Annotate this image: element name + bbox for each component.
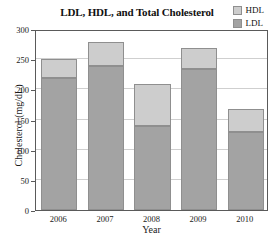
- x-tick-label: 2009: [190, 214, 207, 224]
- y-tick-label: 0: [25, 206, 29, 216]
- bar-segment-ldl: [41, 78, 77, 210]
- legend-label: HDL: [246, 6, 265, 15]
- x-tick-label: 2007: [96, 214, 113, 224]
- chart-legend: HDLLDL: [231, 4, 267, 30]
- y-tick-label: 150: [16, 116, 29, 126]
- y-tick-label: 50: [21, 176, 30, 186]
- plot-area: [35, 30, 268, 211]
- y-axis-ticks: 050100150200250300: [0, 30, 35, 211]
- x-axis-title: Year: [35, 224, 268, 235]
- bar-group: [88, 42, 124, 210]
- cholesterol-bar-chart: LDL, HDL, and Total Cholesterol Choleste…: [0, 0, 274, 239]
- bar-segment-hdl: [181, 48, 217, 69]
- legend-swatch-icon: [233, 19, 242, 28]
- x-tick-label: 2010: [236, 214, 253, 224]
- y-tick-label: 300: [16, 25, 29, 35]
- bar-segment-ldl: [134, 126, 170, 210]
- bars-layer: [36, 31, 267, 210]
- x-tick-label: 2008: [143, 214, 160, 224]
- y-tick-label: 250: [16, 55, 29, 65]
- bar-segment-ldl: [228, 132, 264, 210]
- legend-item: HDL: [233, 5, 265, 16]
- bar-segment-ldl: [181, 69, 217, 210]
- bar-segment-hdl: [134, 84, 170, 126]
- bar-segment-hdl: [228, 109, 264, 133]
- y-tick-label: 100: [16, 146, 29, 156]
- bar-segment-hdl: [88, 42, 124, 66]
- bar-segment-ldl: [88, 66, 124, 210]
- legend-swatch-icon: [233, 6, 242, 15]
- legend-item: LDL: [233, 18, 265, 29]
- legend-label: LDL: [246, 19, 264, 28]
- bar-segment-hdl: [41, 59, 77, 78]
- bar-group: [228, 109, 264, 210]
- bar-group: [134, 84, 170, 210]
- bar-group: [41, 59, 77, 210]
- bar-group: [181, 48, 217, 210]
- y-tick-label: 200: [16, 85, 29, 95]
- x-tick-label: 2006: [50, 214, 67, 224]
